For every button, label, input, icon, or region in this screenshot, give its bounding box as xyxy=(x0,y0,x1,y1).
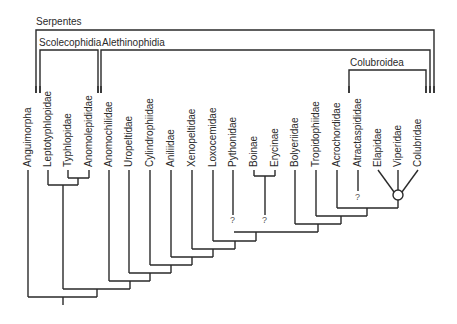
branch-colubridae xyxy=(402,170,418,192)
taxon-label-bolyeriidae: Bolyeriidae xyxy=(290,118,300,167)
taxon-label-pythonidae: Pythonidae xyxy=(228,117,238,167)
label-serpentes: Serpentes xyxy=(36,17,82,27)
taxon-label-acrochordidae: Acrochordidae xyxy=(332,103,342,167)
taxon-label-erycinae: Erycinae xyxy=(270,128,280,167)
polytomy-node xyxy=(393,190,403,200)
taxon-label-tropidophiidae: Tropidophiidae xyxy=(311,101,321,167)
taxon-label-colubridae: Colubridae xyxy=(413,119,423,167)
taxon-label-aniliidae: Aniliidae xyxy=(166,129,176,167)
scolecophidia-bracket xyxy=(40,50,98,93)
taxon-label-anomochilidae: Anomochilidae xyxy=(104,101,114,167)
taxon-label-typhlopidae: Typhlopidae xyxy=(63,113,73,167)
uncertain-mark: ? xyxy=(355,193,360,202)
colubroidea-bracket xyxy=(349,70,426,93)
taxon-label-atractaspididae: Atractaspididae xyxy=(353,98,363,167)
taxon-label-anguimorpha: Anguimorpha xyxy=(23,108,33,167)
taxon-label-boinae: Boinae xyxy=(249,136,259,167)
uncertain-mark: ? xyxy=(230,216,235,225)
taxon-label-anomolepididae: Anomolepididae xyxy=(84,95,94,167)
branch-elapidae xyxy=(378,170,394,192)
taxon-label-leptotyphlopidae: Leptotyphlopidae xyxy=(43,91,53,167)
label-scolecophidia: Scolecophidia xyxy=(39,38,101,48)
taxon-label-cylindrophiidae: Cylindrophiidae xyxy=(145,98,155,167)
uncertain-mark: ? xyxy=(262,216,267,225)
label-alethinophidia: Alethinophidia xyxy=(102,38,165,48)
taxon-label-elapidae: Elapidae xyxy=(373,128,383,167)
taxon-label-loxocemidae: Loxocemidae xyxy=(208,108,218,167)
taxon-label-viperidae: Viperidae xyxy=(393,125,403,167)
label-colubroidea: Colubroidea xyxy=(350,58,404,68)
taxon-label-uropeltidae: Uropeltidae xyxy=(124,116,134,167)
taxon-label-xenopeltidae: Xenopeltidae xyxy=(187,109,197,167)
